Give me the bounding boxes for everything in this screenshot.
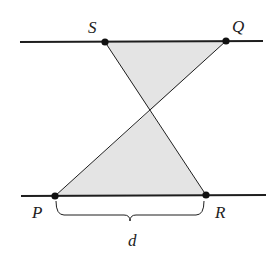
diagram-canvas: S Q P R d — [0, 0, 279, 266]
point-S — [101, 38, 108, 45]
shaded-triangle-top — [105, 41, 226, 111]
label-Q: Q — [232, 17, 244, 36]
shaded-triangle-bottom — [55, 111, 206, 196]
distance-brace — [56, 201, 204, 221]
label-S: S — [88, 18, 97, 37]
point-P — [51, 192, 58, 199]
label-P: P — [31, 203, 42, 222]
point-Q — [222, 37, 229, 44]
label-R: R — [214, 203, 226, 222]
label-d: d — [128, 231, 137, 250]
point-R — [202, 191, 209, 198]
geometry-diagram: S Q P R d — [0, 0, 279, 266]
